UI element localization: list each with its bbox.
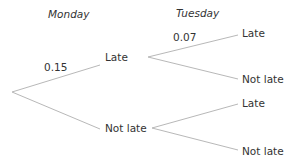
branch-notlate-tuesday-not-late [152, 128, 238, 150]
node-tuesday-late-after-late: Late [242, 28, 265, 39]
branch-late-tuesday-not-late [148, 57, 238, 79]
probability-tuesday-late-given-late: 0.07 [173, 32, 196, 43]
node-tuesday-not-late-after-late: Not late [242, 74, 284, 85]
header-monday: Monday [48, 9, 89, 20]
header-tuesday: Tuesday [176, 8, 219, 19]
node-tuesday-late-after-not-late: Late [242, 98, 265, 109]
node-monday-late: Late [105, 52, 128, 63]
probability-monday-late: 0.15 [44, 62, 67, 73]
branch-monday-not-late [12, 92, 100, 129]
branch-notlate-tuesday-late [152, 104, 238, 128]
node-tuesday-not-late-after-not-late: Not late [242, 146, 284, 157]
node-monday-not-late: Not late [105, 123, 147, 134]
